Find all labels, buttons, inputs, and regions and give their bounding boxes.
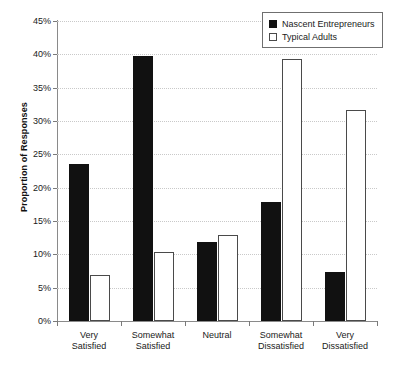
y-axis-tick-label: 30%: [33, 116, 51, 126]
bar: [133, 56, 153, 321]
category-label-line: Satisfied: [57, 341, 121, 352]
y-axis-tick-label: 40%: [33, 49, 51, 59]
open-square-icon: [269, 33, 277, 41]
bar: [261, 202, 281, 321]
x-axis-tick-mark: [121, 321, 122, 326]
x-axis-tick-mark: [249, 321, 250, 326]
bar: [218, 235, 238, 321]
y-axis-tick-mark: [53, 154, 57, 155]
x-axis-tick-mark: [185, 321, 186, 326]
x-axis-tick-mark: [57, 321, 58, 326]
y-axis-tick-mark: [53, 188, 57, 189]
y-axis-tick-mark: [53, 88, 57, 89]
y-axis-tick-label: 15%: [33, 216, 51, 226]
gridline: [57, 188, 377, 189]
category-label-line: Very: [313, 330, 377, 341]
bar: [197, 242, 217, 321]
x-axis-category-label: VeryDissatisfied: [313, 330, 377, 352]
legend-item: Typical Adults: [269, 30, 375, 43]
category-label-line: Dissatisfied: [249, 341, 313, 352]
x-axis-category-label: Neutral: [185, 330, 249, 341]
y-axis-tick-label: 10%: [33, 249, 51, 259]
legend-item-label: Nascent Entrepreneurs: [282, 19, 375, 29]
y-axis-tick-mark: [53, 288, 57, 289]
bar-chart: Proportion of Responses 0%5%10%15%20%25%…: [0, 0, 398, 366]
gridline: [57, 54, 377, 55]
y-axis-tick-label: 45%: [33, 16, 51, 26]
bar: [69, 164, 89, 321]
category-label-line: Very: [57, 330, 121, 341]
category-label-line: Somewhat: [249, 330, 313, 341]
bar: [282, 59, 302, 321]
y-axis-tick-mark: [53, 21, 57, 22]
y-axis-tick-mark: [53, 54, 57, 55]
legend-item-label: Typical Adults: [282, 32, 337, 42]
bar: [346, 110, 366, 321]
x-axis-category-label: VerySatisfied: [57, 330, 121, 352]
x-axis-tick-mark: [377, 321, 378, 326]
y-axis-tick-label: 0%: [38, 316, 51, 326]
bar: [325, 272, 345, 321]
gridline: [57, 121, 377, 122]
x-axis-category-label: SomewhatSatisfied: [121, 330, 185, 352]
y-axis-tick-label: 25%: [33, 149, 51, 159]
gridline: [57, 221, 377, 222]
chart-legend: Nascent EntrepreneursTypical Adults: [262, 12, 383, 48]
y-axis-tick-label: 20%: [33, 183, 51, 193]
bar: [154, 252, 174, 321]
y-axis-tick-mark: [53, 121, 57, 122]
x-axis-tick-mark: [313, 321, 314, 326]
category-label-line: Somewhat: [121, 330, 185, 341]
category-label-line: Neutral: [185, 330, 249, 341]
plot-area: 0%5%10%15%20%25%30%35%40%45%: [57, 21, 377, 321]
bar: [90, 275, 110, 321]
filled-square-icon: [269, 20, 277, 28]
y-axis-tick-mark: [53, 221, 57, 222]
category-label-line: Dissatisfied: [313, 341, 377, 352]
y-axis-tick-label: 35%: [33, 83, 51, 93]
gridline: [57, 88, 377, 89]
category-label-line: Satisfied: [121, 341, 185, 352]
gridline: [57, 154, 377, 155]
y-axis-tick-mark: [53, 254, 57, 255]
x-axis-line: [57, 321, 378, 322]
y-axis-title: Proportion of Responses: [19, 67, 29, 247]
y-axis-tick-label: 5%: [38, 283, 51, 293]
x-axis-category-label: SomewhatDissatisfied: [249, 330, 313, 352]
legend-item: Nascent Entrepreneurs: [269, 17, 375, 30]
